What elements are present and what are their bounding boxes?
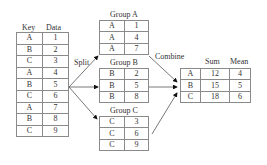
combine-arrow-a xyxy=(149,56,177,82)
split-arrow-c xyxy=(69,87,97,119)
split-arrow-a xyxy=(69,56,98,87)
flow-arrows xyxy=(0,0,267,165)
combine-arrow-c xyxy=(152,93,177,134)
